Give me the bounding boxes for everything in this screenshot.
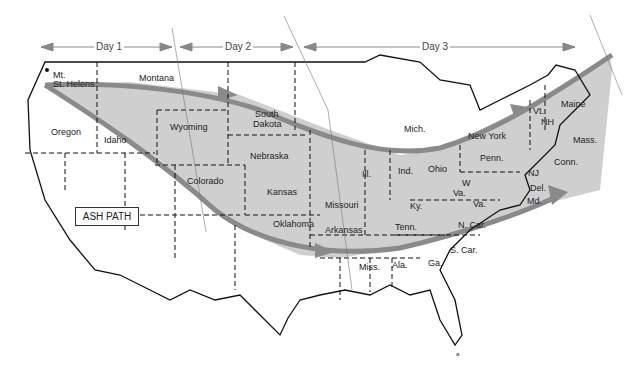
state-mississippi: Miss. [359,262,380,272]
state-new-hampshire: NH [541,117,554,127]
day-1-label: Day 1 [94,41,124,52]
state-arkansas: Arkansas [325,225,363,235]
state-kansas: Kansas [267,187,297,197]
state-maryland: Md. [527,196,542,206]
volcano-marker-icon [45,68,49,72]
state-oklahoma: Oklahoma [273,219,314,229]
state-nebraska: Nebraska [250,151,289,161]
state-north-carolina: N. Car. [458,220,486,230]
state-michigan: Mich. [404,124,426,134]
state-new-jersey: NJ [528,168,539,178]
state-kentucky: Ky. [410,201,422,211]
state-missouri: Missouri [325,200,359,210]
origin-label-line2: St. Helens [53,79,95,89]
state-alabama: Ala. [392,260,408,270]
day-2-label: Day 2 [223,41,253,52]
state-virginia: Va. [473,199,486,209]
state-west-virginia-2: Va. [453,188,466,198]
state-colorado: Colorado [187,176,224,186]
day-3-label: Day 3 [420,41,450,52]
state-connecticut: Conn. [554,157,578,167]
state-georgia: Ga. [428,258,443,268]
state-illinois: Ill. [362,169,371,179]
state-indiana: Ind. [398,166,413,176]
state-idaho: Idaho [104,135,127,145]
state-maine: Maine [561,99,586,109]
state-montana: Montana [139,73,174,83]
state-pennsylvania: Penn. [480,153,504,163]
state-vermont: Vt. [533,106,544,116]
state-ohio: Ohio [428,164,447,174]
state-south-carolina: S. Car. [450,245,478,255]
state-west-virginia-1: W [462,178,471,188]
state-new-york: New York [468,131,506,141]
state-south-dakota-1: South [255,109,279,119]
state-delaware: Del. [530,183,546,193]
state-south-dakota-2: Dakota [253,119,282,129]
state-oregon: Oregon [51,127,81,137]
state-massachusetts: Mass. [573,135,597,145]
footnote-mark: a [456,351,459,357]
state-wyoming: Wyoming [170,122,207,132]
ash-path-legend: ASH PATH [75,207,139,226]
state-tennessee: Tenn. [395,222,417,232]
